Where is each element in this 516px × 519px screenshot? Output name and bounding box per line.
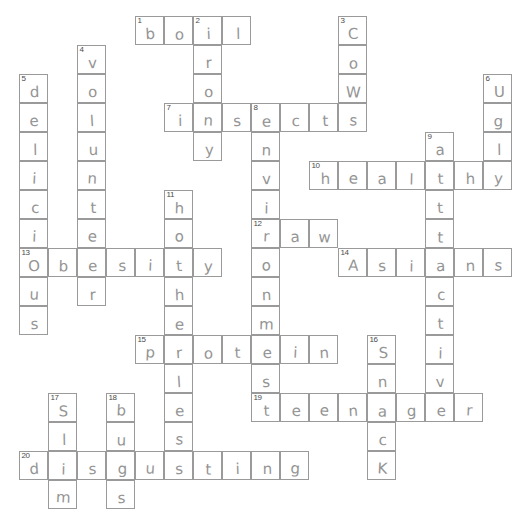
grid-cell-r4-c0[interactable]: l bbox=[19, 132, 48, 161]
grid-cell-r13-c15[interactable]: r bbox=[454, 393, 483, 422]
grid-cell-r3-c11[interactable]: s bbox=[338, 103, 367, 132]
grid-cell-r15-c1[interactable]: i bbox=[48, 451, 77, 480]
grid-cell-r7-c2[interactable]: e bbox=[77, 219, 106, 248]
grid-cell-r8-c12[interactable]: s bbox=[367, 248, 396, 277]
grid-cell-r11-c5[interactable]: r bbox=[164, 335, 193, 364]
grid-cell-r1-c2[interactable]: 4v bbox=[77, 45, 106, 74]
grid-cell-r9-c0[interactable]: u bbox=[19, 277, 48, 306]
grid-cell-r5-c10[interactable]: 10h bbox=[309, 161, 338, 190]
grid-cell-r15-c6[interactable]: t bbox=[193, 451, 222, 480]
grid-cell-r13-c12[interactable]: a bbox=[367, 393, 396, 422]
grid-cell-r13-c10[interactable]: e bbox=[309, 393, 338, 422]
grid-cell-r11-c7[interactable]: t bbox=[222, 335, 251, 364]
grid-cell-r3-c9[interactable]: c bbox=[280, 103, 309, 132]
grid-cell-r2-c11[interactable]: W bbox=[338, 74, 367, 103]
grid-cell-r11-c10[interactable]: n bbox=[309, 335, 338, 364]
grid-cell-r11-c12[interactable]: 16S bbox=[367, 335, 396, 364]
grid-cell-r0-c7[interactable]: l bbox=[222, 16, 251, 45]
grid-cell-r14-c3[interactable]: u bbox=[106, 422, 135, 451]
grid-cell-r15-c3[interactable]: g bbox=[106, 451, 135, 480]
grid-cell-r9-c2[interactable]: r bbox=[77, 277, 106, 306]
grid-cell-r4-c14[interactable]: 9a bbox=[425, 132, 454, 161]
grid-cell-r15-c2[interactable]: s bbox=[77, 451, 106, 480]
grid-cell-r12-c5[interactable]: l bbox=[164, 364, 193, 393]
grid-cell-r8-c11[interactable]: 14A bbox=[338, 248, 367, 277]
grid-cell-r12-c12[interactable]: n bbox=[367, 364, 396, 393]
grid-cell-r0-c11[interactable]: 3C bbox=[338, 16, 367, 45]
grid-cell-r8-c15[interactable]: n bbox=[454, 248, 483, 277]
grid-cell-r5-c16[interactable]: y bbox=[483, 161, 512, 190]
grid-cell-r3-c2[interactable]: l bbox=[77, 103, 106, 132]
grid-cell-r15-c8[interactable]: n bbox=[251, 451, 280, 480]
grid-cell-r10-c8[interactable]: m bbox=[251, 306, 280, 335]
grid-cell-r7-c0[interactable]: i bbox=[19, 219, 48, 248]
grid-cell-r8-c1[interactable]: b bbox=[48, 248, 77, 277]
grid-cell-r4-c16[interactable]: l bbox=[483, 132, 512, 161]
grid-cell-r4-c2[interactable]: u bbox=[77, 132, 106, 161]
grid-cell-r0-c4[interactable]: 1b bbox=[135, 16, 164, 45]
grid-cell-r15-c4[interactable]: u bbox=[135, 451, 164, 480]
grid-cell-r14-c1[interactable]: l bbox=[48, 422, 77, 451]
grid-cell-r15-c9[interactable]: g bbox=[280, 451, 309, 480]
grid-cell-r16-c3[interactable]: s bbox=[106, 480, 135, 509]
grid-cell-r12-c8[interactable]: s bbox=[251, 364, 280, 393]
grid-cell-r8-c5[interactable]: t bbox=[164, 248, 193, 277]
grid-cell-r11-c9[interactable]: i bbox=[280, 335, 309, 364]
grid-cell-r5-c11[interactable]: e bbox=[338, 161, 367, 190]
grid-cell-r11-c8[interactable]: e bbox=[251, 335, 280, 364]
grid-cell-r13-c9[interactable]: e bbox=[280, 393, 309, 422]
grid-cell-r2-c0[interactable]: 5d bbox=[19, 74, 48, 103]
grid-cell-r13-c13[interactable]: g bbox=[396, 393, 425, 422]
grid-cell-r4-c6[interactable]: y bbox=[193, 132, 222, 161]
grid-cell-r5-c14[interactable]: t bbox=[425, 161, 454, 190]
grid-cell-r11-c14[interactable]: i bbox=[425, 335, 454, 364]
grid-cell-r13-c11[interactable]: n bbox=[338, 393, 367, 422]
grid-cell-r13-c14[interactable]: e bbox=[425, 393, 454, 422]
grid-cell-r8-c13[interactable]: i bbox=[396, 248, 425, 277]
grid-cell-r8-c0[interactable]: 13O bbox=[19, 248, 48, 277]
grid-cell-r3-c10[interactable]: t bbox=[309, 103, 338, 132]
grid-cell-r8-c2[interactable]: e bbox=[77, 248, 106, 277]
crossword-grid[interactable]: 1bo2il3Cro4voWo5d6U7ins8ectslegynul9al10… bbox=[0, 0, 516, 519]
grid-cell-r6-c14[interactable]: t bbox=[425, 190, 454, 219]
grid-cell-r13-c3[interactable]: 18b bbox=[106, 393, 135, 422]
grid-cell-r13-c5[interactable]: e bbox=[164, 393, 193, 422]
grid-cell-r5-c0[interactable]: i bbox=[19, 161, 48, 190]
grid-cell-r5-c8[interactable]: v bbox=[251, 161, 280, 190]
grid-cell-r7-c9[interactable]: a bbox=[280, 219, 309, 248]
grid-cell-r3-c6[interactable]: n bbox=[193, 103, 222, 132]
grid-cell-r16-c1[interactable]: m bbox=[48, 480, 77, 509]
grid-cell-r3-c16[interactable]: g bbox=[483, 103, 512, 132]
grid-cell-r0-c6[interactable]: 2i bbox=[193, 16, 222, 45]
grid-cell-r1-c11[interactable]: o bbox=[338, 45, 367, 74]
grid-cell-r7-c14[interactable]: t bbox=[425, 219, 454, 248]
grid-cell-r10-c14[interactable]: t bbox=[425, 306, 454, 335]
grid-cell-r6-c8[interactable]: i bbox=[251, 190, 280, 219]
grid-cell-r8-c8[interactable]: o bbox=[251, 248, 280, 277]
grid-cell-r9-c8[interactable]: n bbox=[251, 277, 280, 306]
grid-cell-r9-c5[interactable]: h bbox=[164, 277, 193, 306]
grid-cell-r15-c7[interactable]: i bbox=[222, 451, 251, 480]
grid-cell-r3-c8[interactable]: 8e bbox=[251, 103, 280, 132]
grid-cell-r8-c16[interactable]: s bbox=[483, 248, 512, 277]
grid-cell-r3-c7[interactable]: s bbox=[222, 103, 251, 132]
grid-cell-r7-c10[interactable]: w bbox=[309, 219, 338, 248]
grid-cell-r11-c6[interactable]: o bbox=[193, 335, 222, 364]
grid-cell-r3-c0[interactable]: e bbox=[19, 103, 48, 132]
grid-cell-r13-c1[interactable]: 17S bbox=[48, 393, 77, 422]
grid-cell-r8-c6[interactable]: y bbox=[193, 248, 222, 277]
grid-cell-r8-c14[interactable]: a bbox=[425, 248, 454, 277]
grid-cell-r5-c13[interactable]: l bbox=[396, 161, 425, 190]
grid-cell-r15-c5[interactable]: s bbox=[164, 451, 193, 480]
grid-cell-r12-c14[interactable]: v bbox=[425, 364, 454, 393]
grid-cell-r2-c16[interactable]: 6U bbox=[483, 74, 512, 103]
grid-cell-r13-c8[interactable]: 19t bbox=[251, 393, 280, 422]
grid-cell-r3-c5[interactable]: 7i bbox=[164, 103, 193, 132]
grid-cell-r14-c5[interactable]: s bbox=[164, 422, 193, 451]
grid-cell-r14-c12[interactable]: c bbox=[367, 422, 396, 451]
grid-cell-r7-c8[interactable]: 12r bbox=[251, 219, 280, 248]
grid-cell-r6-c5[interactable]: 11h bbox=[164, 190, 193, 219]
grid-cell-r0-c5[interactable]: o bbox=[164, 16, 193, 45]
grid-cell-r7-c5[interactable]: o bbox=[164, 219, 193, 248]
grid-cell-r5-c12[interactable]: a bbox=[367, 161, 396, 190]
